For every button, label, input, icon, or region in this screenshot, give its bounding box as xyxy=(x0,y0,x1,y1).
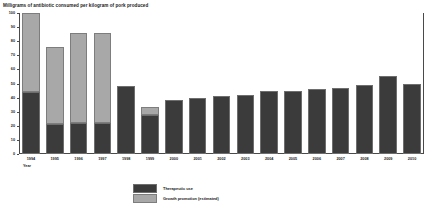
bar-segment-therapeutic xyxy=(94,123,112,154)
bar-group xyxy=(237,13,255,154)
bar-segment-therapeutic xyxy=(70,123,88,154)
bar-group xyxy=(308,13,326,154)
legend-label-growth-promotion: Growth promotion (estimated) xyxy=(163,196,219,201)
x-axis-tick-label: 1999 xyxy=(138,157,162,161)
x-axis-tick-label: 1997 xyxy=(90,157,114,161)
x-axis-tick-label: 2010 xyxy=(400,157,424,161)
bar-segment-therapeutic xyxy=(141,115,159,154)
y-axis-tick-label: 30 xyxy=(0,110,15,114)
bar-group xyxy=(332,13,350,154)
x-axis-tick-label: 2009 xyxy=(376,157,400,161)
bar-segment-therapeutic xyxy=(403,84,421,155)
bar-group xyxy=(284,13,302,154)
bar-group xyxy=(46,13,64,154)
bar-segment-therapeutic xyxy=(189,98,207,154)
bar-group xyxy=(117,13,135,154)
bar-group xyxy=(213,13,231,154)
bar-segment-therapeutic xyxy=(356,85,374,154)
x-axis-tick-label: 2006 xyxy=(305,157,329,161)
y-axis-tick-label: 60 xyxy=(0,67,15,71)
y-axis-tick-label: 50 xyxy=(0,82,15,86)
bar-segment-growth-promotion xyxy=(70,33,88,123)
y-axis-tick-label: 70 xyxy=(0,53,15,57)
bar-segment-therapeutic xyxy=(22,92,40,154)
legend-item-therapeutic: Therapeutic use xyxy=(133,184,219,193)
legend-label-therapeutic: Therapeutic use xyxy=(163,186,193,191)
bar-segment-therapeutic xyxy=(260,91,278,154)
x-axis-tick-label: 2000 xyxy=(162,157,186,161)
bar-group xyxy=(165,13,183,154)
x-axis-tick-label: 1998 xyxy=(114,157,138,161)
x-axis-tick-label: 1995 xyxy=(43,157,67,161)
x-axis-tick-label: 2005 xyxy=(281,157,305,161)
y-axis-tick-label: 90 xyxy=(0,25,15,29)
legend-swatch-growth-promotion xyxy=(133,194,157,203)
x-axis-tick-label: 2002 xyxy=(210,157,234,161)
bar-segment-therapeutic xyxy=(332,88,350,154)
bar-group xyxy=(70,13,88,154)
bar-group xyxy=(94,13,112,154)
bar-segment-therapeutic xyxy=(46,124,64,154)
bar-segment-therapeutic xyxy=(213,96,231,154)
bar-segment-growth-promotion xyxy=(46,47,64,125)
bar-segment-growth-promotion xyxy=(22,13,40,92)
x-axis-tick-label: 2008 xyxy=(353,157,377,161)
bar-segment-therapeutic xyxy=(379,76,397,154)
bar-group xyxy=(379,13,397,154)
bar-group xyxy=(22,13,40,154)
bar-group xyxy=(189,13,207,154)
bar-group xyxy=(141,13,159,154)
chart-title: Milligrams of antibiotic consumed per ki… xyxy=(3,3,148,8)
x-axis-tick-label: 2004 xyxy=(257,157,281,161)
bar-segment-therapeutic xyxy=(308,89,326,154)
y-axis-tick-label: 80 xyxy=(0,39,15,43)
x-axis-tick-label: 1994 xyxy=(19,157,43,161)
x-axis-tick-label: 2003 xyxy=(233,157,257,161)
y-axis-tick-label: 20 xyxy=(0,124,15,128)
bar-segment-therapeutic xyxy=(117,86,135,154)
x-axis-tick-label: 2007 xyxy=(329,157,353,161)
bar-segment-growth-promotion xyxy=(94,33,112,123)
legend-swatch-therapeutic xyxy=(133,184,157,193)
antibiotic-consumption-chart: Milligrams of antibiotic consumed per ki… xyxy=(0,0,427,213)
bar-group xyxy=(403,13,421,154)
bar-segment-therapeutic xyxy=(237,95,255,154)
x-axis-title: Year xyxy=(23,164,31,168)
y-axis-tick-label: 40 xyxy=(0,96,15,100)
bar-segment-therapeutic xyxy=(284,91,302,154)
chart-legend: Therapeutic use Growth promotion (estima… xyxy=(133,184,219,204)
bars-container xyxy=(19,13,424,154)
bar-group xyxy=(356,13,374,154)
bar-segment-growth-promotion xyxy=(141,107,159,114)
y-axis-tick-label: 10 xyxy=(0,138,15,142)
y-axis-tick-label: 0 xyxy=(0,152,15,156)
bar-group xyxy=(260,13,278,154)
bar-segment-therapeutic xyxy=(165,100,183,154)
x-axis-tick-label: 2001 xyxy=(186,157,210,161)
legend-item-growth-promotion: Growth promotion (estimated) xyxy=(133,194,219,203)
y-axis-tick-label: 100 xyxy=(0,11,15,15)
x-axis-tick-label: 1996 xyxy=(67,157,91,161)
plot-area xyxy=(19,13,424,154)
y-axis-tick-mark xyxy=(17,154,19,155)
